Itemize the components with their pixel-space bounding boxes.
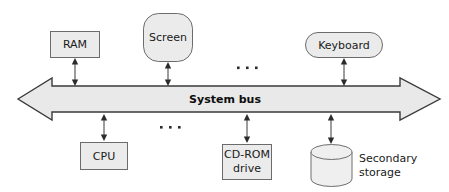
arrow-head-down-ram	[72, 80, 78, 87]
screen-label: Screen	[149, 31, 187, 44]
cdrom-label-line2: drive	[233, 162, 261, 175]
ellipsis-top	[237, 67, 258, 70]
node-keyboard[interactable]: Keyboard	[306, 33, 383, 58]
system-bus-diagram: System bus RAM Screen Keyboard	[0, 0, 449, 192]
arrow-head-up-screen	[165, 62, 171, 69]
arrow-head-down-storage	[328, 138, 334, 145]
keyboard-label: Keyboard	[318, 39, 370, 52]
arrow-head-down-keyboard	[341, 80, 347, 87]
connector-keyboard-to-bus	[341, 58, 347, 86]
connector-screen-to-bus	[165, 62, 171, 86]
connector-cdrom-to-bus	[244, 114, 250, 143]
arrow-head-up-keyboard	[341, 58, 347, 65]
arrow-head-down-cpu	[101, 135, 107, 142]
node-secondary-storage[interactable]: Secondary storage	[311, 145, 418, 187]
node-cdrom-drive[interactable]: CD-ROM drive	[223, 145, 272, 180]
arrow-head-up-storage	[328, 114, 334, 121]
cdrom-label-line1: CD-ROM	[224, 148, 270, 161]
node-cpu[interactable]: CPU	[81, 143, 128, 170]
cpu-label: CPU	[93, 150, 115, 163]
connector-cpu-to-bus	[101, 114, 107, 141]
ellipsis-bottom	[160, 126, 181, 129]
cylinder-top-shape	[311, 145, 352, 160]
arrow-head-down-screen	[165, 80, 171, 87]
arrow-head-down-cdrom	[244, 137, 250, 144]
system-bus-label: System bus	[189, 93, 261, 106]
arrow-head-up-cdrom	[244, 114, 250, 121]
arrow-head-up-ram	[72, 58, 78, 65]
connector-ram-to-bus	[72, 58, 78, 86]
ram-label: RAM	[63, 38, 87, 51]
secondary-storage-label-line2: storage	[359, 166, 401, 179]
system-bus: System bus	[18, 78, 440, 120]
node-ram[interactable]: RAM	[51, 32, 100, 58]
connector-secondary-storage-to-bus	[328, 114, 334, 144]
arrow-head-up-cpu	[101, 114, 107, 121]
node-screen[interactable]: Screen	[144, 14, 193, 62]
secondary-storage-label-line1: Secondary	[359, 152, 418, 165]
diagram-canvas: System bus RAM Screen Keyboard	[0, 0, 449, 192]
